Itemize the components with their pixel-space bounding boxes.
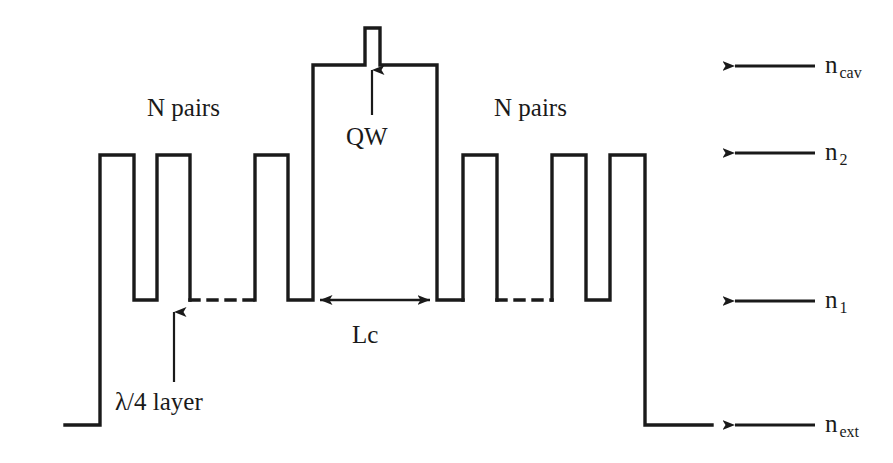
label-n-ext-base: n	[825, 410, 838, 437]
label-quantum-well: QW	[346, 124, 388, 149]
label-n-ext: next	[825, 411, 857, 436]
index-profile-trace	[65, 28, 712, 425]
profile-right-exterior	[552, 155, 712, 425]
profile-left-exterior	[65, 155, 190, 425]
label-n-1: n1	[825, 287, 846, 312]
label-n-cav: ncav	[825, 52, 860, 77]
label-n-ext-subscript: ext	[840, 423, 860, 440]
label-n-pairs-left: N pairs	[147, 95, 220, 120]
profile-right-inner	[463, 155, 497, 300]
label-n-1-subscript: 1	[840, 299, 848, 316]
label-n-pairs-right: N pairs	[494, 95, 567, 120]
label-cavity-length: Lc	[352, 322, 378, 347]
label-n-cav-subscript: cav	[840, 64, 862, 81]
label-quarter-wave-layer: λ/4 layer	[115, 389, 203, 414]
label-n-2: n2	[825, 139, 846, 164]
label-n-cav-base: n	[825, 51, 838, 78]
label-n-1-base: n	[825, 286, 838, 313]
label-n-2-base: n	[825, 138, 838, 165]
index-profile-figure: N pairs N pairs QW Lc λ/4 layer ncav n2 …	[0, 0, 893, 463]
profile-left-inner	[255, 28, 463, 300]
label-n-2-subscript: 2	[840, 151, 848, 168]
